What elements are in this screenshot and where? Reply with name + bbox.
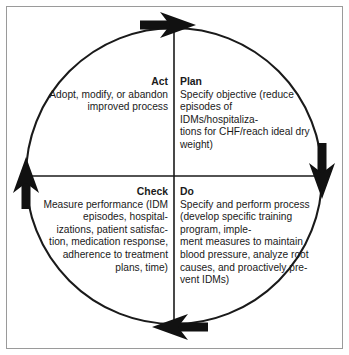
quadrant-plan: Plan Specify objective (reduce episodes … [180, 76, 310, 152]
quadrant-check-heading: Check [34, 186, 168, 199]
pdca-diagram: Act Adopt, modify, or abandon improved p… [0, 0, 349, 355]
quadrant-do: Do Specify and perform process (develop … [180, 186, 318, 287]
arrow-top-right [140, 12, 196, 38]
arrow-bottom-left [152, 314, 208, 340]
quadrant-plan-heading: Plan [180, 76, 310, 89]
quadrant-do-heading: Do [180, 186, 318, 199]
quadrant-check: Check Measure performance (IDM episodes,… [34, 186, 168, 274]
cycle-graphic [0, 0, 349, 355]
quadrant-act: Act Adopt, modify, or abandon improved p… [44, 76, 168, 114]
quadrant-check-body: Measure performance (IDM episodes, hospi… [34, 199, 168, 275]
quadrant-do-body: Specify and perform process (develop spe… [180, 199, 318, 287]
quadrant-act-heading: Act [44, 76, 168, 89]
quadrant-act-body: Adopt, modify, or abandon improved proce… [44, 89, 168, 114]
quadrant-plan-body: Specify objective (reduce episodes of ID… [180, 89, 310, 152]
